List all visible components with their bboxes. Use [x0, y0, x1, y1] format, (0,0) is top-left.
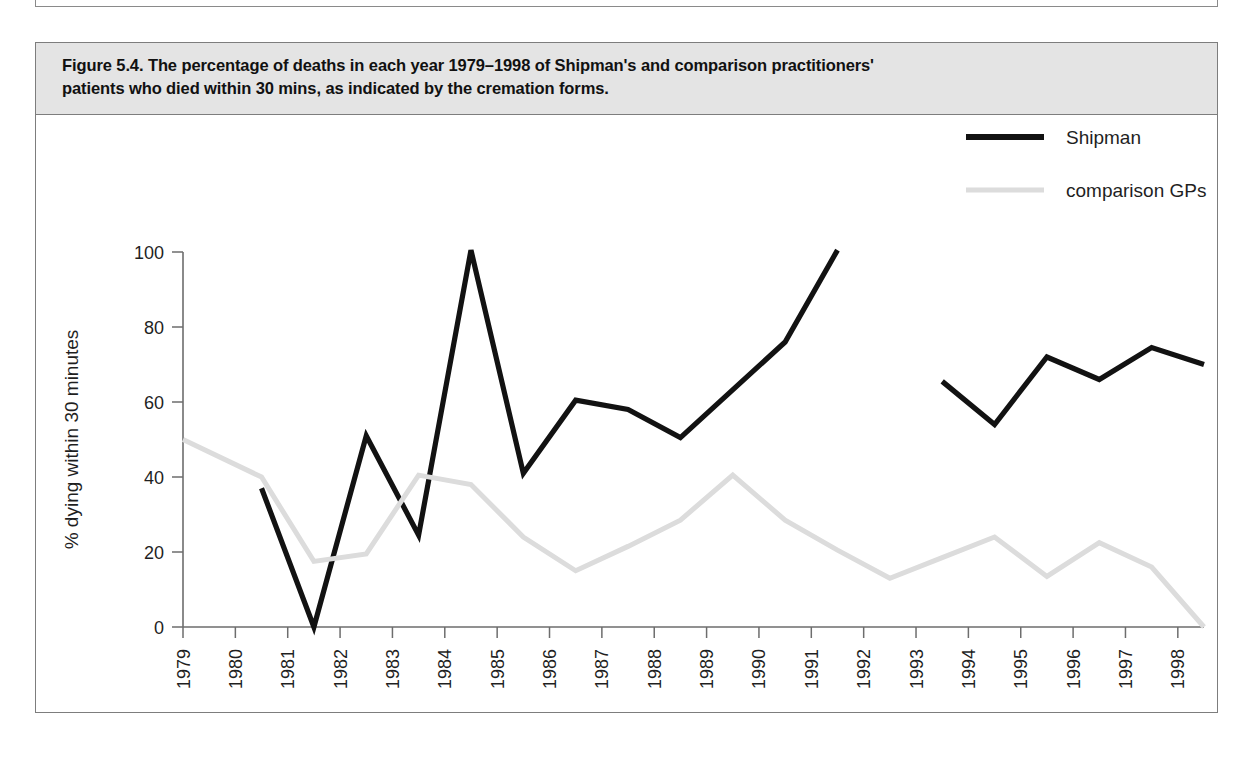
x-tick-label: 1994: [959, 649, 979, 689]
y-tick-label: 40: [144, 468, 164, 488]
x-tick-label: 1998: [1168, 649, 1188, 689]
x-tick-label: 1987: [592, 649, 612, 689]
series-line-shipman: [262, 250, 838, 627]
x-tick-label: 1989: [697, 649, 717, 689]
y-tick-label: 80: [144, 318, 164, 338]
figure-caption-line-1: Figure 5.4. The percentage of deaths in …: [62, 54, 1191, 77]
figure-container: Figure 5.4. The percentage of deaths in …: [35, 42, 1218, 713]
chart-plot-area: 0204060801001979198019811982198319841985…: [36, 115, 1217, 713]
x-tick-label: 1997: [1116, 649, 1136, 689]
figure-caption-line-2: patients who died within 30 mins, as ind…: [62, 77, 1191, 100]
y-tick-label: 20: [144, 543, 164, 563]
x-tick-label: 1985: [488, 649, 508, 689]
x-tick-label: 1992: [854, 649, 874, 689]
figure-caption: Figure 5.4. The percentage of deaths in …: [36, 43, 1217, 115]
y-tick-label: 0: [154, 618, 164, 638]
y-tick-label: 100: [134, 243, 164, 263]
x-tick-label: 1991: [802, 649, 822, 689]
series-line-shipman: [942, 348, 1204, 425]
x-tick-label: 1981: [278, 649, 298, 689]
line-chart: 0204060801001979198019811982198319841985…: [36, 115, 1217, 713]
preceding-box-sliver: [35, 0, 1218, 7]
x-tick-label: 1986: [540, 649, 560, 689]
x-tick-label: 1979: [174, 649, 194, 689]
x-tick-label: 1995: [1011, 649, 1031, 689]
x-tick-label: 1996: [1064, 649, 1084, 689]
x-tick-label: 1982: [331, 649, 351, 689]
x-tick-label: 1983: [383, 649, 403, 689]
x-tick-label: 1988: [645, 649, 665, 689]
x-tick-label: 1980: [226, 649, 246, 689]
x-tick-label: 1990: [749, 649, 769, 689]
legend-label-shipman: Shipman: [1066, 127, 1141, 148]
x-tick-label: 1993: [907, 649, 927, 689]
legend-label-comparison-gps: comparison GPs: [1066, 180, 1206, 201]
y-tick-label: 60: [144, 393, 164, 413]
series-line-comparison-gps: [183, 440, 1204, 628]
x-tick-label: 1984: [435, 649, 455, 689]
y-axis-title: % dying within 30 minutes: [61, 330, 82, 550]
